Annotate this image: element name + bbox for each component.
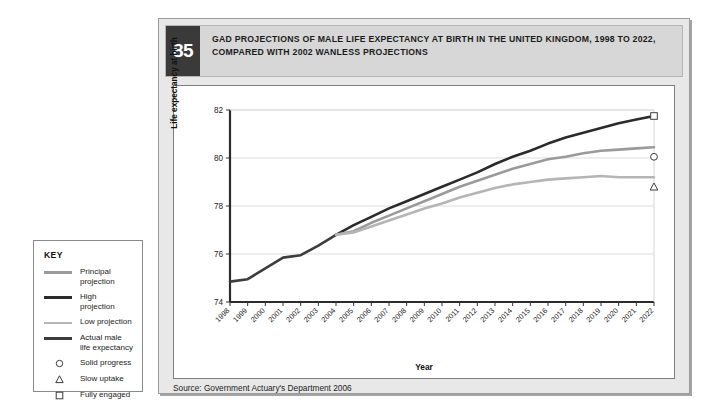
x-tick-label: 2002: [284, 306, 302, 324]
chart-key-box: KEY Principal projectionHigh projectionL…: [33, 240, 143, 392]
key-item-label: Actual male life expectancy: [80, 333, 133, 353]
key-item: High projection: [44, 292, 133, 312]
key-line-swatch: [44, 292, 74, 303]
x-tick-label: 2007: [372, 306, 390, 324]
x-tick-label: 2011: [443, 306, 461, 324]
x-tick-label: 2013: [478, 306, 496, 324]
circle-marker: [651, 153, 658, 160]
key-line-glyph: [44, 322, 72, 325]
x-tick-label: 2012: [461, 306, 479, 324]
y-tick-label: 80: [214, 154, 224, 163]
x-tick-label: 2020: [602, 306, 620, 324]
figure-title-bar: 85 GAD PROJECTIONS OF MALE LIFE EXPECTAN…: [165, 25, 683, 77]
key-triangle-marker: [44, 374, 74, 385]
key-title: KEY: [44, 250, 133, 260]
x-tick-label: 2008: [390, 306, 408, 324]
key-circle-marker: [44, 358, 74, 369]
x-tick-label: 2006: [355, 306, 373, 324]
key-item-label: High projection: [80, 292, 133, 312]
triangle-marker: [650, 183, 658, 190]
key-item: Actual male life expectancy: [44, 333, 133, 353]
x-tick-label: 2003: [302, 306, 320, 324]
key-item: Slow uptake: [44, 374, 133, 385]
x-tick-label: 2000: [249, 306, 267, 324]
y-tick-label: 74: [214, 298, 224, 307]
figure-source: Source: Government Actuary's Department …: [173, 383, 352, 393]
y-tick-label: 82: [214, 106, 224, 115]
key-line-swatch: [44, 317, 74, 328]
key-line-glyph: [44, 296, 72, 299]
key-items-list: Principal projectionHigh projectionLow p…: [44, 267, 133, 401]
key-item-label: Solid progress: [80, 358, 131, 368]
x-tick-label: 1998: [213, 306, 231, 324]
figure-panel: 85 GAD PROJECTIONS OF MALE LIFE EXPECTAN…: [158, 18, 690, 394]
y-tick-label: 78: [214, 202, 224, 211]
x-tick-label: 2019: [584, 306, 602, 324]
x-tick-label: 2010: [425, 306, 443, 324]
chart-svg: 7476788082199819992000200120022003200420…: [174, 86, 676, 380]
key-item: Fully engaged: [44, 390, 133, 401]
x-tick-label: 2004: [319, 306, 337, 324]
x-tick-label: 2021: [620, 306, 638, 324]
x-tick-label: 2015: [514, 306, 532, 324]
key-item-label: Principal projection: [80, 267, 133, 287]
square-marker: [651, 113, 658, 120]
x-tick-label: 1999: [231, 306, 249, 324]
x-tick-label: 2014: [496, 306, 514, 324]
x-tick-label: 2022: [637, 306, 655, 324]
x-tick-label: 2017: [549, 306, 567, 324]
key-line-glyph: [44, 271, 72, 274]
key-item: Low projection: [44, 317, 133, 328]
x-tick-label: 2016: [531, 306, 549, 324]
key-line-glyph: [44, 337, 72, 340]
chart-plot-card: Life expectancy at birth Year 7476788082…: [173, 85, 675, 379]
key-item-label: Fully engaged: [80, 390, 130, 400]
key-item: Principal projection: [44, 267, 133, 287]
x-tick-label: 2009: [408, 306, 426, 324]
x-tick-label: 2005: [337, 306, 355, 324]
series-line: [336, 176, 654, 235]
figure-title: GAD PROJECTIONS OF MALE LIFE EXPECTANCY …: [200, 26, 682, 76]
x-tick-label: 2018: [567, 306, 585, 324]
series-line: [230, 235, 336, 282]
key-square-marker: [44, 390, 74, 401]
key-line-swatch: [44, 333, 74, 344]
key-item-label: Low projection: [80, 317, 132, 327]
y-tick-label: 76: [214, 250, 224, 259]
x-tick-label: 2001: [266, 306, 284, 324]
key-item: Solid progress: [44, 358, 133, 369]
key-line-swatch: [44, 267, 74, 278]
key-item-label: Slow uptake: [80, 374, 124, 384]
